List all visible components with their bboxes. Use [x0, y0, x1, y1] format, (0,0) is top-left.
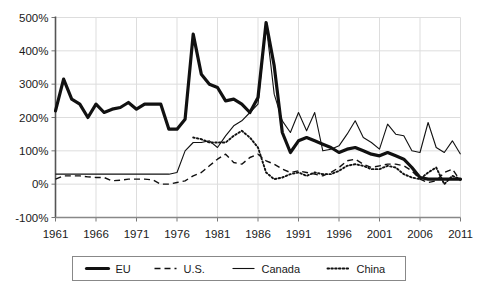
- xtick-label-1996: 1996: [326, 228, 352, 240]
- xtick-label-1971: 1971: [124, 228, 150, 240]
- ytick-label-500: 500%: [19, 12, 48, 24]
- ytick-label-100: 100%: [19, 145, 48, 157]
- ytick-label-300: 300%: [19, 78, 48, 90]
- xtick-label-1991: 1991: [286, 228, 312, 240]
- xtick-label-1976: 1976: [164, 228, 190, 240]
- xtick-label-1966: 1966: [83, 228, 109, 240]
- legend-label-canada[interactable]: Canada: [262, 263, 301, 275]
- xtick-label-2001: 2001: [367, 228, 393, 240]
- legend-label-eu[interactable]: EU: [116, 263, 131, 275]
- ytick-label-400: 400%: [19, 45, 48, 57]
- xtick-label-1986: 1986: [245, 228, 271, 240]
- xtick-label-1981: 1981: [205, 228, 231, 240]
- xtick-label-2011: 2011: [448, 228, 473, 240]
- ytick-label-200: 200%: [19, 112, 48, 124]
- ytick-label--100: -100%: [15, 212, 48, 224]
- ytick-label-0: 0%: [32, 178, 49, 190]
- legend-label-china[interactable]: China: [357, 263, 387, 275]
- xtick-label-1961: 1961: [43, 228, 69, 240]
- line-chart: 500%400%300%200%100%0%-100%1961196619711…: [0, 0, 477, 292]
- legend-label-us[interactable]: U.S.: [184, 263, 205, 275]
- xtick-label-2006: 2006: [407, 228, 433, 240]
- chart-canvas: 500%400%300%200%100%0%-100%1961196619711…: [0, 0, 477, 292]
